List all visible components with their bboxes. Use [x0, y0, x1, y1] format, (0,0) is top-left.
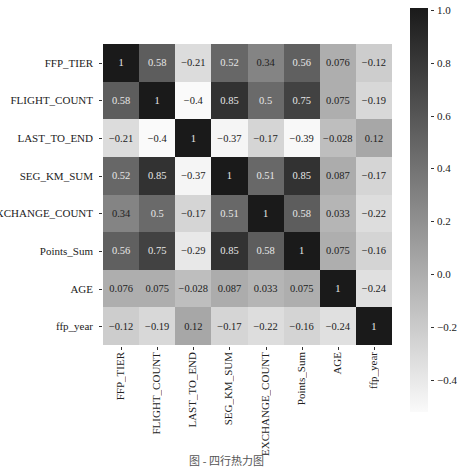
heatmap-cell: 1 — [211, 157, 247, 195]
heatmap-cell: 0.85 — [211, 232, 247, 270]
heatmap-cell: 0.56 — [284, 44, 320, 82]
heatmap-cell: 0.75 — [139, 232, 175, 270]
heatmap-cell: 0.52 — [103, 157, 139, 195]
x-tick-mark — [229, 347, 230, 350]
heatmap-cell: −0.16 — [284, 307, 320, 345]
heatmap-cell: 0.56 — [103, 232, 139, 270]
x-tick-label: SEG_KM_SUM — [222, 352, 234, 425]
heatmap-cell: 0.076 — [320, 44, 356, 82]
heatmap-cell: −0.21 — [175, 44, 211, 82]
x-tick-mark — [302, 347, 303, 350]
colorbar-tick-mark — [431, 63, 434, 64]
heatmap-cell: 0.85 — [284, 157, 320, 195]
heatmap-cell: 0.34 — [248, 44, 284, 82]
heatmap-cell: 1 — [320, 270, 356, 308]
heatmap-cell: −0.21 — [103, 119, 139, 157]
heatmap-cell: 0.087 — [211, 270, 247, 308]
y-tick-label: EXCHANGE_COUNT — [0, 207, 93, 219]
heatmap-cell: 0.51 — [248, 157, 284, 195]
y-tick-label: SEG_KM_SUM — [20, 170, 93, 182]
heatmap-cell: 0.075 — [320, 232, 356, 270]
heatmap-cell: 0.58 — [284, 195, 320, 233]
y-tick-label: AGE — [70, 283, 93, 295]
heatmap-cell: −0.028 — [175, 270, 211, 308]
heatmap-cell: −0.24 — [320, 307, 356, 345]
heatmap-cell: 0.85 — [139, 157, 175, 195]
heatmap-cell: 1 — [103, 44, 139, 82]
y-tick-mark — [99, 251, 102, 252]
colorbar-tick-mark — [431, 116, 434, 117]
heatmap-cell: −0.22 — [248, 307, 284, 345]
heatmap-cell: 0.85 — [211, 82, 247, 120]
x-tick-label: ffp_year — [367, 352, 379, 389]
heatmap-cell: 0.033 — [320, 195, 356, 233]
heatmap-cell: 1 — [175, 119, 211, 157]
colorbar-tick-mark — [431, 168, 434, 169]
y-tick-mark — [99, 63, 102, 64]
heatmap-cell: −0.4 — [175, 82, 211, 120]
heatmap-cell: 0.12 — [356, 119, 392, 157]
colorbar-tick-mark — [431, 221, 434, 222]
y-tick-label: FLIGHT_COUNT — [11, 94, 94, 106]
y-tick-mark — [99, 213, 102, 214]
colorbar — [410, 8, 428, 412]
y-tick-mark — [99, 100, 102, 101]
heatmap-cell: 0.52 — [211, 44, 247, 82]
x-tick-mark — [266, 347, 267, 350]
x-tick-label: EXCHANGE_COUNT — [259, 352, 271, 456]
heatmap-cell: −0.37 — [175, 157, 211, 195]
heatmap-cell: −0.22 — [356, 195, 392, 233]
heatmap-cell: −0.16 — [356, 232, 392, 270]
heatmap-cell: 0.12 — [175, 307, 211, 345]
colorbar-tick-label: 0.6 — [437, 110, 451, 122]
heatmap-cell: −0.24 — [356, 270, 392, 308]
x-tick-mark — [338, 347, 339, 350]
colorbar-tick-label: 0.2 — [437, 215, 451, 227]
heatmap-cell: −0.12 — [356, 44, 392, 82]
colorbar-tick-label: 0.0 — [437, 268, 451, 280]
heatmap-cell: 1 — [284, 232, 320, 270]
y-tick-label: ffp_year — [56, 320, 93, 332]
heatmap-cell: 0.5 — [139, 195, 175, 233]
y-tick-mark — [99, 289, 102, 290]
x-tick-mark — [157, 347, 158, 350]
heatmap-cell: −0.17 — [248, 119, 284, 157]
colorbar-tick-mark — [431, 10, 434, 11]
heatmap-cell: −0.12 — [103, 307, 139, 345]
y-tick-mark — [99, 138, 102, 139]
colorbar-tick-mark — [431, 327, 434, 328]
heatmap-cell: 0.58 — [248, 232, 284, 270]
heatmap-cell: −0.028 — [320, 119, 356, 157]
heatmap-grid: 10.58−0.210.520.340.560.076−0.120.581−0.… — [103, 44, 392, 345]
y-tick-mark — [99, 326, 102, 327]
heatmap-cell: 0.58 — [103, 82, 139, 120]
y-tick-mark — [99, 176, 102, 177]
heatmap-cell: 1 — [139, 82, 175, 120]
heatmap-cell: 0.033 — [248, 270, 284, 308]
heatmap-cell: −0.39 — [284, 119, 320, 157]
colorbar-tick-label: 0.8 — [437, 57, 451, 69]
figure-caption: 图 - 四行热力图 — [0, 452, 453, 468]
colorbar-tick-label: 1.0 — [437, 4, 451, 16]
heatmap-cell: 0.075 — [320, 82, 356, 120]
x-tick-label: FFP_TIER — [114, 352, 126, 400]
heatmap-cell: 0.075 — [284, 270, 320, 308]
heatmap-cell: 0.075 — [139, 270, 175, 308]
heatmap-cell: −0.19 — [356, 82, 392, 120]
x-tick-mark — [121, 347, 122, 350]
colorbar-tick-label: −0.4 — [437, 374, 457, 386]
y-tick-label: LAST_TO_END — [17, 132, 93, 144]
heatmap-cell: 1 — [248, 195, 284, 233]
heatmap-cell: 0.58 — [139, 44, 175, 82]
colorbar-tick-label: −0.2 — [437, 321, 457, 333]
colorbar-tick-mark — [431, 380, 434, 381]
x-tick-label: Points_Sum — [295, 352, 307, 405]
heatmap-cell: −0.37 — [211, 119, 247, 157]
heatmap-cell: 0.51 — [211, 195, 247, 233]
heatmap-cell: −0.19 — [139, 307, 175, 345]
heatmap-cell: 1 — [356, 307, 392, 345]
x-tick-mark — [193, 347, 194, 350]
heatmap-cell: −0.17 — [211, 307, 247, 345]
x-tick-label: LAST_TO_END — [186, 352, 198, 428]
heatmap-cell: 0.087 — [320, 157, 356, 195]
